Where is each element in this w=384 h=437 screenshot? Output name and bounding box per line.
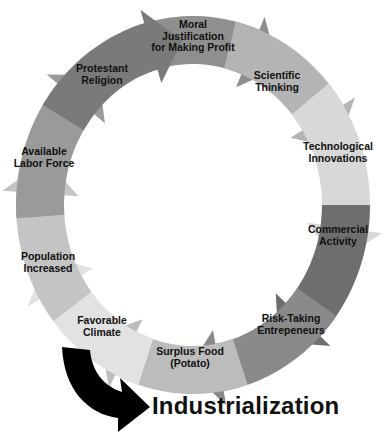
step-moral-justification-label: Moral Justification for Making Profit (151, 19, 234, 54)
label-line: Commercial (308, 224, 368, 236)
outcome-industrialization-label: Industrialization (152, 392, 339, 420)
label-line: Risk-Taking (257, 313, 325, 325)
label-line: Thinking (254, 81, 301, 93)
step-population-increased-label: Population Increased (21, 251, 75, 274)
step-technological-innovations-label: Technological Innovations (303, 141, 373, 164)
label-line: Increased (21, 262, 75, 274)
cycle-ring (0, 0, 384, 437)
step-available-labor-force-label: Available Labor Force (14, 146, 75, 169)
label-line: Scientific (254, 70, 301, 82)
label-line: Technological (303, 141, 373, 153)
label-line: for Making Profit (151, 42, 234, 54)
step-scientific-thinking-label: Scientific Thinking (254, 70, 301, 93)
label-line: Moral (151, 19, 234, 31)
label-line: Labor Force (14, 157, 75, 169)
step-favorable-climate-label: Favorable Climate (77, 315, 127, 338)
step-commercial-activity-label: Commercial Activity (308, 224, 368, 247)
label-line: (Potato) (156, 357, 224, 369)
label-line: Available (14, 146, 75, 158)
label-line: Population (21, 251, 75, 263)
label-line: Climate (77, 326, 127, 338)
step-surplus-food-label: Surplus Food (Potato) (156, 346, 224, 369)
label-line: Activity (308, 235, 368, 247)
label-line: Surplus Food (156, 346, 224, 358)
label-line: Innovations (303, 152, 373, 164)
step-risk-taking-entrepeneurs-label: Risk-Taking Entrepeneurs (257, 313, 325, 336)
label-line: Favorable (77, 315, 127, 327)
step-protestant-religion-label: Protestant Religion (76, 63, 128, 86)
label-line: Religion (76, 74, 128, 86)
label-line: Protestant (76, 63, 128, 75)
label-line: Entrepeneurs (257, 324, 325, 336)
